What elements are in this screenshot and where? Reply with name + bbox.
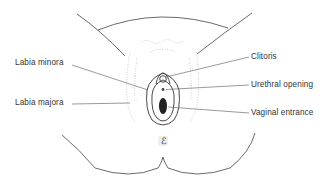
label-urethral-opening: Urethral opening [251, 81, 313, 89]
label-labia-majora: Labia majora [15, 99, 64, 107]
label-labia-minora: Labia minora [15, 59, 64, 67]
urethral-opening-shape [162, 88, 165, 91]
vaginal-entrance-shape [159, 98, 167, 114]
thigh-outlines [77, 13, 252, 56]
clitoris-shape [160, 76, 167, 83]
anatomy-diagram: ℰ [0, 0, 333, 192]
label-vaginal-entrance: Vaginal entrance [251, 109, 313, 117]
anus-symbol: ℰ [158, 136, 168, 146]
label-clitoris: Clitoris [251, 53, 277, 61]
